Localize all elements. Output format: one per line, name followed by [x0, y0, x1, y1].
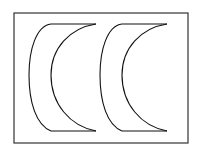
crescent-inner-curve	[51, 24, 96, 131]
diagram-canvas	[0, 0, 198, 149]
crescent-left	[29, 24, 96, 131]
crescent-outer-curve	[100, 24, 167, 131]
crescent-right	[100, 24, 167, 131]
crescent-outer-curve	[29, 24, 96, 131]
crescent-inner-curve	[122, 24, 167, 131]
frame-rectangle	[14, 13, 188, 143]
